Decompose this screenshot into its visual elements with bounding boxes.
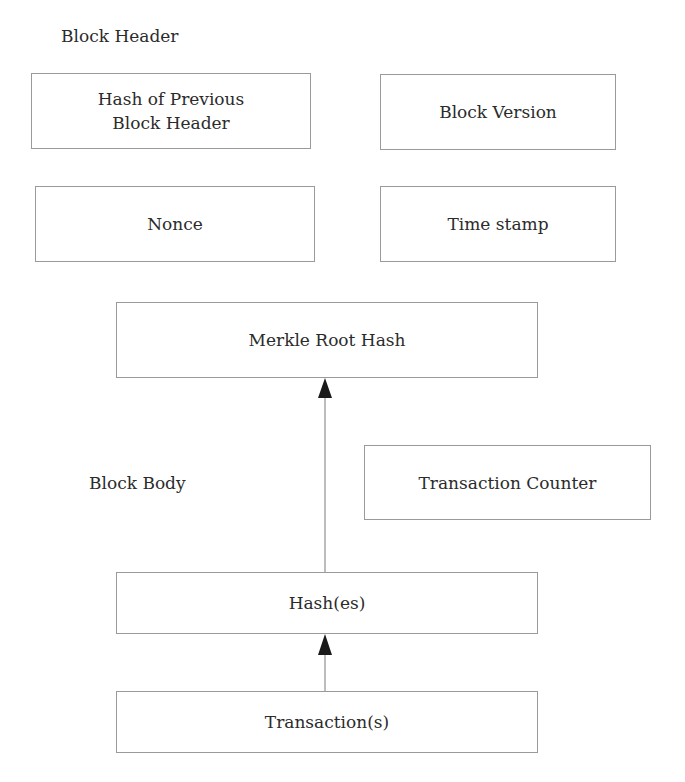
merkle-root-box: Merkle Root Hash <box>116 302 538 378</box>
hashes-arrowhead-icon <box>318 634 332 655</box>
hashes-box: Hash(es) <box>116 572 538 634</box>
nonce-text: Nonce <box>147 212 203 236</box>
prev-hash-line-1: Hash of Previous <box>98 87 245 111</box>
block-version-box: Block Version <box>380 74 616 150</box>
merkle-root-text: Merkle Root Hash <box>249 328 406 352</box>
nonce-box: Nonce <box>35 186 315 262</box>
hashes-text: Hash(es) <box>289 591 366 615</box>
timestamp-text: Time stamp <box>447 212 548 236</box>
transaction-counter-text: Transaction Counter <box>419 471 597 495</box>
transactions-text: Transaction(s) <box>265 710 389 734</box>
block-header-label: Block Header <box>61 26 178 46</box>
prev-hash-line-2: Block Header <box>98 111 245 135</box>
transactions-box: Transaction(s) <box>116 691 538 753</box>
transaction-counter-box: Transaction Counter <box>364 445 651 520</box>
merkle-arrowhead-icon <box>318 378 332 398</box>
prev-hash-box: Hash of Previous Block Header <box>31 73 311 149</box>
block-body-label: Block Body <box>89 473 186 493</box>
block-version-text: Block Version <box>439 100 557 124</box>
timestamp-box: Time stamp <box>380 186 616 262</box>
